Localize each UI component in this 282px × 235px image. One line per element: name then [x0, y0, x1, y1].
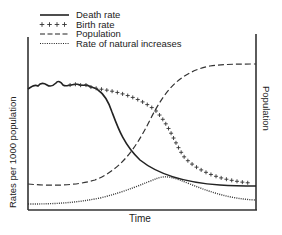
- y-axis-right-text: Population: [261, 86, 272, 131]
- population-curve: [28, 64, 256, 185]
- y-axis-left-text: Rates per 1000 population: [7, 97, 18, 208]
- death-rate-curve: [28, 82, 256, 186]
- legend-label-natural: Rate of natural increases: [76, 39, 182, 49]
- y-axis-left-label: Rates per 1000 population: [7, 70, 21, 210]
- y-axis-right-label: Population: [259, 60, 273, 150]
- x-axis-label: Time: [129, 213, 151, 224]
- legend: Death rate Birth rate Population Rate of…: [40, 10, 182, 48]
- natural-increase-curve: [28, 177, 256, 204]
- birth-rate-curve: [68, 82, 250, 184]
- legend-item-natural: Rate of natural increases: [72, 39, 182, 49]
